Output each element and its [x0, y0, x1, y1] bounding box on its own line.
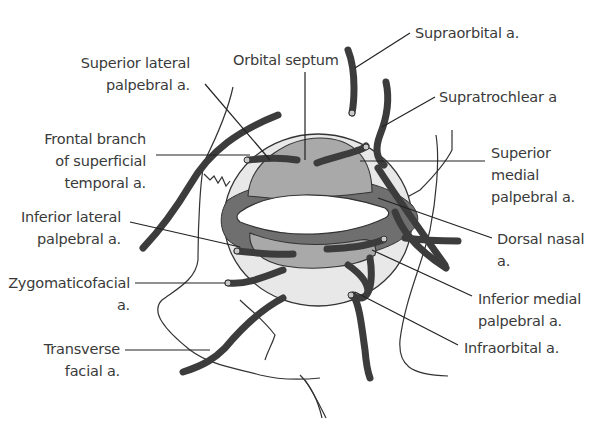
- label-zygomaticofacial: Zygomaticofacial a.: [8, 272, 130, 316]
- label-dorsal-nasal: Dorsal nasal a.: [497, 228, 584, 272]
- inferior-lateral-palpebral-artery: [237, 251, 293, 254]
- supratrochlear-artery: [377, 82, 388, 165]
- label-supraorbital: Supraorbital a.: [415, 22, 519, 44]
- transverse-facial-artery: [183, 298, 283, 372]
- label-inferior-medial-palpebral: Inferior medial palpebral a.: [478, 288, 581, 332]
- label-superior-medial-palpebral: Superior medial palpebral a.: [491, 142, 575, 208]
- infraorbital-artery: [353, 295, 370, 378]
- label-transverse-facial: Transverse facial a.: [44, 338, 120, 382]
- label-supratrochlear: Supratrochlear a: [439, 86, 557, 108]
- label-orbital-septum: Orbital septum: [233, 49, 339, 71]
- label-inferior-lateral-palpebral: Inferior lateral palpebral a.: [21, 206, 121, 250]
- superior-lateral-palpebral-artery: [248, 159, 297, 161]
- supraorbital-artery: [348, 50, 354, 113]
- label-superior-lateral-palpebral: Superior lateral palpebral a.: [81, 52, 190, 96]
- label-infraorbital: Infraorbital a.: [464, 337, 559, 359]
- label-frontal-branch: Frontal branch of superficial temporal a…: [44, 128, 146, 194]
